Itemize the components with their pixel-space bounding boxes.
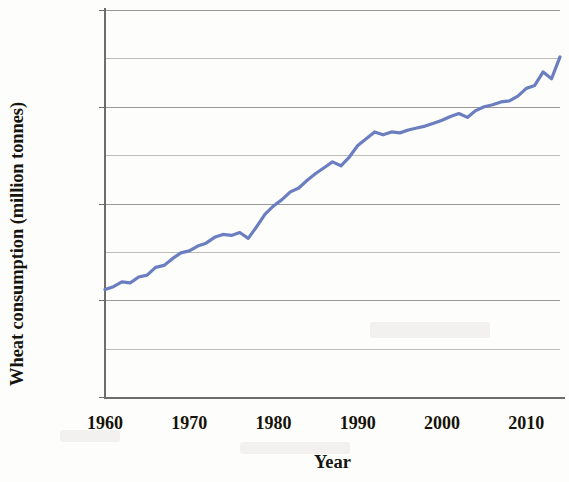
wheat-consumption-chart-figure: Wheat consumption (million tonnes) 02004… xyxy=(0,0,569,482)
x-axis-tick-label: 1970 xyxy=(149,414,229,432)
x-axis-tick-label: 1980 xyxy=(234,414,314,432)
x-axis-tick-label: 2010 xyxy=(486,414,566,432)
x-axis-title: Year xyxy=(105,452,560,473)
x-axis-tick-label: 1990 xyxy=(318,414,398,432)
data-series-svg xyxy=(105,10,560,397)
y-axis-title: Wheat consumption (million tonnes) xyxy=(0,34,34,454)
plot-area: 0200400600800 196019701980199020002010 xyxy=(105,10,560,397)
wheat-consumption-line xyxy=(105,57,560,290)
x-axis-line xyxy=(104,397,565,399)
x-axis-tick-label: 1960 xyxy=(65,414,145,432)
x-axis-tick-label: 2000 xyxy=(402,414,482,432)
